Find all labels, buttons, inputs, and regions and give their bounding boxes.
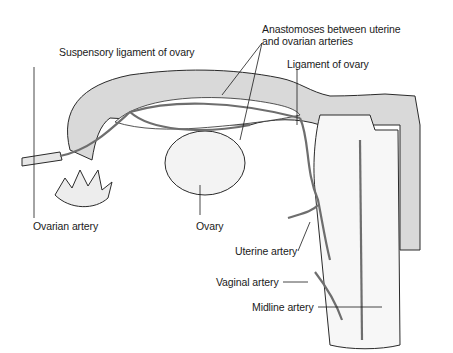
- label-uterine-artery: Uterine artery: [235, 245, 297, 257]
- ovary-shape: [165, 131, 245, 195]
- label-ligament-of-ovary: Ligament of ovary: [287, 58, 369, 70]
- label-midline-artery: Midline artery: [252, 301, 314, 313]
- ovarian-artery-vessel: [22, 152, 62, 166]
- label-anastomoses-line2: and ovarian arteries: [262, 35, 401, 47]
- label-anastomoses-line1: Anastomoses between uterine: [262, 23, 401, 35]
- uterus-body: [314, 115, 400, 349]
- label-vaginal-artery: Vaginal artery: [216, 276, 279, 288]
- label-suspensory-ligament: Suspensory ligament of ovary: [59, 46, 195, 58]
- label-anastomoses: Anastomoses between uterine and ovarian …: [262, 23, 401, 47]
- fimbriae: [55, 170, 112, 207]
- label-ovarian-artery: Ovarian artery: [33, 220, 98, 232]
- label-ovary: Ovary: [196, 220, 224, 232]
